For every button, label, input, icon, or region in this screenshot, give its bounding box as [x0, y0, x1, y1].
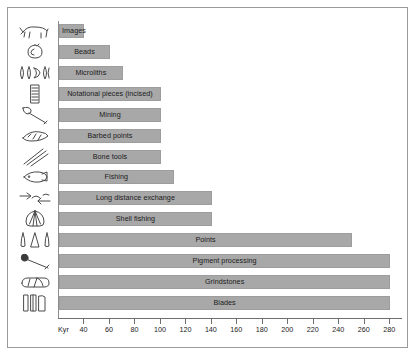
bar-label: Points [59, 233, 352, 247]
bar-label: Mining [59, 108, 161, 122]
fish-icon [12, 167, 58, 187]
x-axis-tick [262, 319, 263, 324]
bar-label: Blades [59, 296, 390, 310]
x-axis-tick-label: 120 [179, 325, 191, 334]
bead-icon [12, 42, 58, 62]
bar-row[interactable]: Beads [59, 45, 110, 59]
bar-label: Fishing [59, 170, 174, 184]
x-axis-tick-label: 220 [307, 325, 319, 334]
x-axis-tick-label: 280 [383, 325, 395, 334]
x-axis: Kyr 406080100120140160180200220240260280 [58, 319, 402, 347]
x-axis-tick-label: 40 [79, 325, 87, 334]
microliths-icon [12, 63, 58, 83]
chart-plot-area: ImagesBeadsMicrolithsNotational pieces (… [8, 8, 407, 347]
shell-icon [12, 209, 58, 229]
icon-column [12, 21, 58, 313]
figure-frame: ImagesBeadsMicrolithsNotational pieces (… [7, 7, 408, 348]
x-axis-title: Kyr [58, 325, 69, 334]
bar-row[interactable]: Notational pieces (incised) [59, 87, 161, 101]
bar-row[interactable]: Points [59, 233, 352, 247]
bar-row[interactable]: Barbed points [59, 129, 161, 143]
bar-row[interactable]: Bone tools [59, 150, 161, 164]
x-axis-tick-label: 240 [332, 325, 344, 334]
bar-row[interactable]: Shell fishing [59, 212, 212, 226]
bar-label: Long distance exchange [59, 191, 212, 205]
bar-row[interactable]: Images [59, 24, 84, 38]
bar-row[interactable]: Grindstones [59, 275, 390, 289]
bone-tools-icon [12, 147, 58, 167]
bar-row[interactable]: Long distance exchange [59, 191, 212, 205]
blades-icon [12, 293, 58, 313]
hafted-pigment-tool-icon [12, 251, 58, 271]
x-axis-tick [134, 319, 135, 324]
x-axis-tick-label: 140 [205, 325, 217, 334]
x-axis-tick [185, 319, 186, 324]
bar-row[interactable]: Fishing [59, 170, 174, 184]
bar-label: Barbed points [59, 129, 161, 143]
x-axis-tick-label: 180 [256, 325, 268, 334]
x-axis-tick [389, 319, 390, 324]
bar-label: Beads [59, 45, 110, 59]
mining-pick-icon [12, 105, 58, 125]
x-axis-tick [160, 319, 161, 324]
bar-label: Grindstones [59, 275, 390, 289]
x-axis-tick [211, 319, 212, 324]
x-axis-tick [236, 319, 237, 324]
x-axis-tick [287, 319, 288, 324]
x-axis-tick-label: 60 [105, 325, 113, 334]
exchange-arrows-icon [12, 188, 58, 208]
bar-label: Shell fishing [59, 212, 212, 226]
barbed-point-icon [12, 126, 58, 146]
bar-row[interactable]: Blades [59, 296, 390, 310]
x-axis-tick [313, 319, 314, 324]
grindstone-icon [12, 272, 58, 292]
bar-label: Microliths [59, 66, 123, 80]
x-axis-tick-label: 260 [358, 325, 370, 334]
x-axis-tick-label: 160 [230, 325, 242, 334]
bar-row[interactable]: Pigment processing [59, 254, 390, 268]
x-axis-tick [83, 319, 84, 324]
chart-bars-container: ImagesBeadsMicrolithsNotational pieces (… [58, 21, 402, 319]
stone-points-icon [12, 230, 58, 250]
bar-label: Bone tools [59, 150, 161, 164]
notched-bone-icon [12, 84, 58, 104]
bar-label: Images [62, 24, 86, 38]
x-axis-tick [338, 319, 339, 324]
bar-label: Notational pieces (incised) [59, 87, 161, 101]
x-axis-tick [109, 319, 110, 324]
bar-label: Pigment processing [59, 254, 390, 268]
bar-row[interactable]: Microliths [59, 66, 123, 80]
bar-row[interactable]: Mining [59, 108, 161, 122]
animal-figure-icon [12, 21, 58, 41]
x-axis-tick-label: 200 [281, 325, 293, 334]
x-axis-tick [364, 319, 365, 324]
x-axis-tick-label: 100 [154, 325, 166, 334]
x-axis-tick-label: 80 [130, 325, 138, 334]
